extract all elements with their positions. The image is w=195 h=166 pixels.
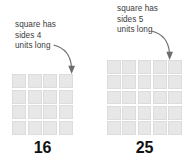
right-annotation-line-2: sides 5 xyxy=(117,15,158,26)
right-curved-arrow xyxy=(150,30,178,62)
right-arrow-head xyxy=(166,52,173,60)
grid-cell xyxy=(12,90,26,104)
grid-cell xyxy=(12,105,26,119)
grid-cell xyxy=(107,75,121,89)
left-annotation-line-2: sides 4 xyxy=(15,31,56,42)
grid-cell xyxy=(107,60,121,74)
left-arrow-curve xyxy=(54,45,72,67)
left-area-value: 16 xyxy=(12,139,73,157)
grid-cell xyxy=(138,75,152,89)
grid-cell xyxy=(28,121,42,135)
grid-cell xyxy=(107,106,121,120)
grid-cell xyxy=(59,105,73,119)
grid-cell xyxy=(122,75,136,89)
grid-cell xyxy=(12,121,26,135)
grid-cell xyxy=(43,90,57,104)
left-annotation-line-3: units long xyxy=(15,41,56,52)
left-square-grid-4x4 xyxy=(12,74,73,135)
right-area-value: 25 xyxy=(107,139,182,157)
grid-cell xyxy=(138,106,152,120)
grid-cell xyxy=(153,75,167,89)
grid-cell xyxy=(28,105,42,119)
grid-cell xyxy=(28,90,42,104)
grid-cell xyxy=(153,106,167,120)
left-annotation-line-1: square has xyxy=(15,20,56,31)
grid-cell xyxy=(43,74,57,88)
grid-cell xyxy=(122,91,136,105)
left-curved-arrow xyxy=(52,44,80,76)
grid-cell xyxy=(122,106,136,120)
grid-cell xyxy=(122,60,136,74)
grid-cell xyxy=(122,121,136,135)
grid-cell xyxy=(138,121,152,135)
grid-cell xyxy=(107,121,121,135)
grid-cell xyxy=(43,105,57,119)
grid-cell xyxy=(59,90,73,104)
grid-cell xyxy=(168,75,182,89)
figure-canvas: square has sides 4 units long 16 square … xyxy=(0,0,195,166)
grid-cell xyxy=(138,91,152,105)
grid-cell xyxy=(153,121,167,135)
grid-cell xyxy=(153,91,167,105)
grid-cell xyxy=(43,121,57,135)
grid-cell xyxy=(12,74,26,88)
grid-cell xyxy=(168,60,182,74)
grid-cell xyxy=(59,74,73,88)
right-arrow-curve xyxy=(152,31,170,53)
grid-cell xyxy=(59,121,73,135)
right-annotation-line-1: square has xyxy=(117,4,158,15)
grid-cell xyxy=(28,74,42,88)
grid-cell xyxy=(168,91,182,105)
grid-cell xyxy=(107,91,121,105)
grid-cell xyxy=(138,60,152,74)
grid-cell xyxy=(168,121,182,135)
grid-cell xyxy=(168,106,182,120)
left-square-annotation: square has sides 4 units long xyxy=(15,20,56,52)
left-arrow-head xyxy=(68,66,75,74)
right-square-grid-5x5 xyxy=(107,60,182,135)
grid-cell xyxy=(153,60,167,74)
